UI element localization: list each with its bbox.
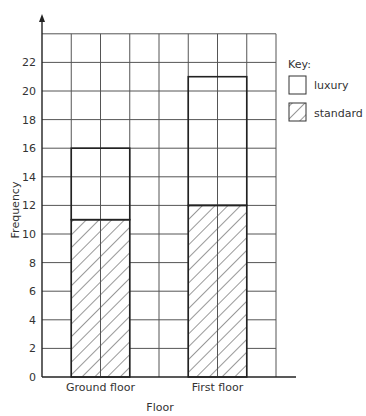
x-category-labels: Ground floorFirst floor — [66, 381, 244, 394]
y-tick-label: 16 — [22, 142, 36, 155]
y-tick-label: 0 — [29, 371, 36, 384]
stacked-bar-chart: 0246810121416182022 Ground floorFirst fl… — [0, 0, 366, 416]
y-tick-label: 2 — [29, 342, 36, 355]
legend-label-standard: standard — [314, 107, 363, 120]
y-tick-label: 18 — [22, 114, 36, 127]
y-tick-label: 4 — [29, 314, 36, 327]
y-tick-label: 14 — [22, 171, 36, 184]
y-axis-arrow-icon — [39, 14, 45, 22]
y-tick-labels: 0246810121416182022 — [22, 56, 36, 384]
x-axis-title: Floor — [146, 401, 174, 414]
x-category-label: First floor — [192, 381, 244, 394]
y-tick-label: 22 — [22, 56, 36, 69]
y-tick-label: 10 — [22, 228, 36, 241]
legend-title: Key: — [288, 58, 311, 71]
y-tick-label: 6 — [29, 285, 36, 298]
legend-swatch-luxury — [289, 76, 306, 94]
y-tick-label: 8 — [29, 257, 36, 270]
legend-label-luxury: luxury — [314, 79, 349, 92]
y-tick-label: 20 — [22, 85, 36, 98]
y-tick-label: 12 — [22, 199, 36, 212]
legend-swatch-standard — [289, 103, 306, 121]
x-category-label: Ground floor — [66, 381, 135, 394]
legend: Key: luxury standard — [288, 58, 363, 121]
y-axis-title: Frequency — [9, 181, 22, 238]
